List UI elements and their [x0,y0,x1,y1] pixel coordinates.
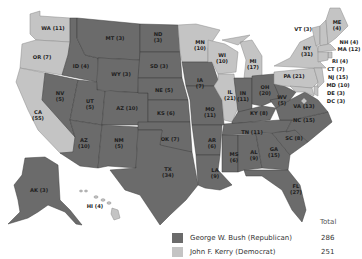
svg-text:PA (21): PA (21) [283,73,304,79]
state-fl [244,170,306,222]
svg-text:MN(10): MN(10) [194,39,206,51]
svg-text:AL(9): AL(9) [250,149,259,161]
legend-total-republican: 286 [321,234,334,242]
legend-total-header: Total [320,218,336,226]
legend-swatch-democrat [172,247,183,257]
svg-text:FL(27): FL(27) [290,183,302,195]
svg-text:SD (3): SD (3) [150,63,168,69]
svg-text:CT (7): CT (7) [327,66,345,72]
svg-text:MS(6): MS(6) [230,151,239,163]
svg-text:HI (4): HI (4) [87,203,103,209]
svg-text:DC (3): DC (3) [327,98,345,104]
svg-text:WA (11): WA (11) [41,25,64,31]
legend-label-democrat: John F. Kerry (Democrat) [190,248,320,256]
svg-text:WY (3): WY (3) [111,71,131,77]
svg-text:SC (8): SC (8) [285,135,303,141]
svg-text:LA(9): LA(9) [211,167,219,179]
svg-text:UT(5): UT(5) [86,98,95,110]
legend-entry-republican: George W. Bush (Republican) 286 [172,232,358,244]
svg-text:AR(6): AR(6) [208,137,216,149]
svg-text:MA (12): MA (12) [338,46,361,52]
legend-swatch-republican [172,233,183,243]
svg-text:OH(20): OH(20) [259,84,271,96]
svg-text:VA (13): VA (13) [293,103,314,109]
state-de [314,86,318,96]
svg-text:ID (4): ID (4) [73,63,89,69]
svg-text:ME(4): ME(4) [333,19,342,31]
svg-text:MO(11): MO(11) [204,106,216,118]
svg-text:WV(5): WV(5) [277,94,287,106]
svg-text:NH (4): NH (4) [340,39,359,45]
svg-text:OR (7): OR (7) [33,54,52,60]
svg-text:VT (3): VT (3) [294,26,312,32]
legend-entry-democrat: John F. Kerry (Democrat) 251 [172,246,358,258]
svg-text:MD (10): MD (10) [326,82,349,88]
legend-total-democrat: 251 [321,248,334,256]
svg-text:NC (15): NC (15) [293,117,315,123]
state-ct [318,52,328,62]
svg-text:AZ (10): AZ (10) [116,105,138,111]
svg-text:AK (3): AK (3) [30,187,48,193]
svg-text:MT (3): MT (3) [106,35,125,41]
svg-text:OK (7): OK (7) [161,136,180,142]
svg-text:DE (3): DE (3) [327,90,345,96]
svg-text:IA(7): IA(7) [196,77,204,89]
svg-text:KS (6): KS (6) [157,110,175,116]
svg-text:NE (5): NE (5) [155,87,173,93]
svg-text:ND(3): ND(3) [154,31,163,43]
legend-label-republican: George W. Bush (Republican) [190,234,320,242]
svg-text:NJ (15): NJ (15) [328,74,348,81]
legend: Total George W. Bush (Republican) 286 Jo… [172,218,358,258]
svg-text:NV(5): NV(5) [56,90,64,102]
svg-text:KY (8): KY (8) [250,110,268,116]
svg-text:TN (11): TN (11) [241,129,263,135]
svg-text:NM(5): NM(5) [114,137,124,149]
svg-text:RI (4): RI (4) [332,58,348,64]
